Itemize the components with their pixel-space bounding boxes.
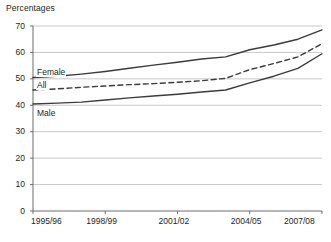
y-tick-label: 30 (3, 126, 25, 136)
y-tick-label: 40 (3, 100, 25, 110)
series-line-female (33, 30, 322, 78)
series-label-female: Female (36, 67, 66, 77)
y-tick-label: 0 (3, 206, 25, 216)
chart-plot-area (0, 0, 331, 242)
y-tick-label: 20 (3, 153, 25, 163)
x-tick-label: 2004/05 (231, 216, 262, 226)
data-series-group (33, 30, 322, 104)
chart-container: Percentages 010203040506070 1995/961998/… (0, 0, 331, 242)
series-label-male: Male (36, 108, 56, 118)
y-tick-label: 10 (3, 179, 25, 189)
series-line-all (33, 44, 322, 90)
x-tick-label: 1998/99 (86, 216, 117, 226)
axes-group (33, 26, 322, 211)
y-tick-label: 60 (3, 47, 25, 57)
series-label-all: All (36, 80, 47, 90)
y-tick-label: 50 (3, 73, 25, 83)
y-tick-label: 70 (3, 21, 25, 31)
x-tick-label: 2007/08 (284, 216, 315, 226)
x-tick-label: 1995/96 (31, 216, 62, 226)
x-tick-label: 2001/02 (159, 216, 190, 226)
gridlines-group (33, 26, 322, 185)
